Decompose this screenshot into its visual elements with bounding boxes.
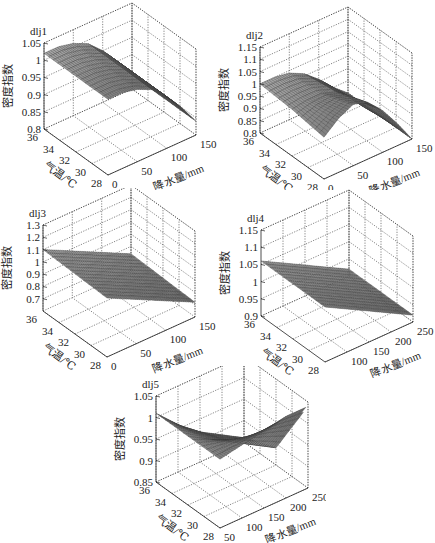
- svg-text:34: 34: [259, 147, 271, 159]
- svg-text:1.1: 1.1: [244, 241, 258, 253]
- svg-text:1.15: 1.15: [239, 224, 259, 236]
- svg-text:0.85: 0.85: [22, 106, 42, 118]
- svg-text:1.05: 1.05: [22, 37, 42, 49]
- surface-mesh: [43, 250, 195, 303]
- surface-plot-dlj5: 0.850.90.9511.05283032343650100150200250…: [108, 366, 326, 543]
- svg-text:34: 34: [155, 496, 167, 508]
- svg-text:32: 32: [171, 507, 182, 519]
- svg-text:0.95: 0.95: [22, 71, 42, 83]
- svg-text:36: 36: [243, 135, 255, 147]
- svg-text:36: 36: [139, 484, 151, 496]
- svg-text:150: 150: [373, 345, 390, 357]
- svg-text:50: 50: [140, 347, 152, 359]
- svg-text:28: 28: [203, 530, 215, 542]
- svg-text:1: 1: [148, 412, 154, 424]
- svg-text:36: 36: [244, 318, 256, 330]
- surface-mesh: [261, 261, 413, 315]
- surface-mesh: [260, 73, 412, 139]
- svg-text:32: 32: [276, 341, 287, 353]
- svg-text:0.95: 0.95: [134, 433, 154, 445]
- svg-text:34: 34: [43, 143, 55, 155]
- z-axis-label: 密度指数: [218, 251, 231, 295]
- svg-text:30: 30: [292, 353, 304, 365]
- plot-title: dlj1: [30, 25, 47, 37]
- z-axis-ticks: 0.70.80.911.11.21.3: [26, 219, 47, 305]
- svg-text:100: 100: [351, 355, 368, 367]
- precipitation-axis-label: 降水量/mm: [367, 165, 422, 190]
- plot-title: dlj5: [142, 378, 160, 390]
- svg-text:28: 28: [90, 359, 102, 371]
- svg-text:200: 200: [290, 501, 307, 513]
- svg-text:1.1: 1.1: [26, 244, 40, 256]
- svg-text:100: 100: [171, 151, 188, 163]
- svg-text:200: 200: [395, 335, 412, 347]
- svg-text:150: 150: [416, 142, 433, 154]
- z-axis-label: 密度指数: [1, 64, 14, 108]
- svg-text:50: 50: [224, 531, 236, 543]
- svg-text:50: 50: [141, 165, 153, 177]
- svg-text:1.2: 1.2: [26, 231, 40, 243]
- plot-title: dlj2: [246, 29, 263, 41]
- svg-text:0.9: 0.9: [27, 89, 41, 101]
- svg-text:100: 100: [170, 333, 187, 345]
- surface-mesh: [44, 43, 196, 121]
- svg-text:34: 34: [42, 325, 54, 337]
- svg-text:30: 30: [291, 170, 303, 182]
- surface-plot-dlj3: 0.70.80.911.11.21.32830323436050100150dl…: [0, 188, 218, 382]
- svg-text:36: 36: [26, 313, 38, 325]
- surface-plot-dlj1: 0.80.850.90.9511.052830323436050100150dl…: [0, 0, 218, 194]
- svg-text:0.7: 0.7: [26, 293, 40, 305]
- svg-text:1: 1: [35, 256, 41, 268]
- svg-text:0.95: 0.95: [239, 293, 259, 305]
- svg-text:150: 150: [200, 138, 217, 150]
- svg-text:0.85: 0.85: [238, 115, 258, 127]
- svg-text:100: 100: [387, 155, 404, 167]
- svg-text:0.9: 0.9: [243, 102, 257, 114]
- z-axis-label: 密度指数: [0, 246, 13, 290]
- svg-text:34: 34: [260, 330, 272, 342]
- svg-text:36: 36: [27, 131, 39, 143]
- svg-text:1.15: 1.15: [238, 41, 258, 53]
- svg-text:1.05: 1.05: [238, 66, 258, 78]
- svg-text:0.9: 0.9: [139, 455, 153, 467]
- surface-plot-dlj4: 0.90.9511.051.11.15283032343610015020025…: [216, 188, 434, 382]
- svg-text:32: 32: [58, 336, 69, 348]
- svg-text:30: 30: [187, 519, 199, 531]
- svg-text:32: 32: [59, 154, 70, 166]
- svg-text:1.05: 1.05: [134, 390, 154, 402]
- svg-text:1.1: 1.1: [243, 53, 257, 65]
- svg-text:1.05: 1.05: [239, 258, 259, 270]
- svg-text:250: 250: [417, 325, 434, 337]
- svg-text:32: 32: [275, 158, 286, 170]
- precipitation-axis-label: 降水量/mm: [151, 161, 206, 190]
- svg-text:50: 50: [357, 169, 369, 181]
- z-axis-label: 密度指数: [217, 68, 230, 112]
- z-axis-label: 密度指数: [113, 417, 126, 461]
- svg-text:30: 30: [74, 348, 86, 360]
- svg-text:0.9: 0.9: [26, 268, 40, 280]
- surface-mesh: [156, 407, 306, 459]
- svg-text:1: 1: [252, 78, 258, 90]
- plot-title: dlj4: [247, 212, 265, 224]
- svg-text:1: 1: [36, 54, 42, 66]
- svg-text:0.95: 0.95: [238, 90, 258, 102]
- svg-text:1.3: 1.3: [26, 219, 40, 231]
- svg-text:30: 30: [75, 166, 87, 178]
- svg-text:1: 1: [253, 276, 259, 288]
- plot-title: dlj3: [29, 207, 47, 219]
- svg-text:150: 150: [199, 320, 216, 332]
- svg-text:150: 150: [268, 511, 285, 523]
- svg-text:100: 100: [246, 521, 263, 533]
- svg-text:0.8: 0.8: [26, 280, 40, 292]
- surface-plot-dlj2: 0.80.850.90.9511.051.11.1528303234360501…: [216, 0, 434, 194]
- svg-text:250: 250: [312, 491, 326, 503]
